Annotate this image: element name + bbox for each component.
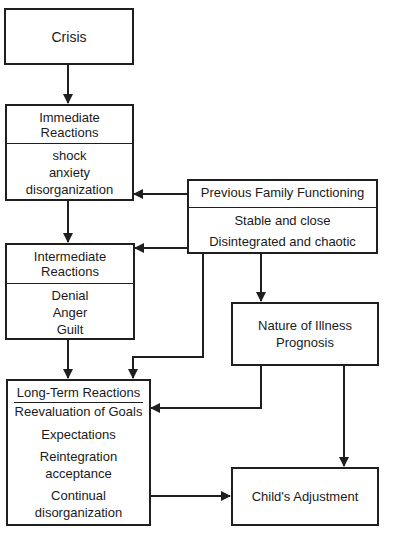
long-term-title: Long-Term Reactions: [14, 385, 143, 403]
immediate-title-line-1: Immediate: [7, 110, 132, 125]
intermediate-reactions-box: Intermediate Reactions Denial Anger Guil…: [5, 243, 135, 340]
long-term-item: Continual: [8, 487, 149, 505]
long-term-subtitle: Reevaluation of Goals: [8, 404, 149, 420]
long-term-items: Expectations Reintegration acceptance Co…: [8, 420, 149, 522]
intermediate-item: Denial: [7, 287, 133, 304]
nature-line-1: Nature of Illness: [258, 317, 352, 334]
nature-line-2: Prognosis: [276, 334, 334, 351]
immediate-item: disorganization: [7, 181, 132, 198]
intermediate-reactions-header: Intermediate Reactions: [7, 245, 133, 284]
long-term-item: Reintegration: [8, 448, 149, 466]
intermediate-item: Anger: [7, 304, 133, 321]
long-term-title-text: Long-Term Reactions: [17, 385, 141, 400]
immediate-item: shock: [7, 147, 132, 164]
immediate-reactions-box: Immediate Reactions shock anxiety disorg…: [5, 104, 134, 201]
immediate-reactions-items: shock anxiety disorganization: [7, 144, 132, 198]
immediate-reactions-header: Immediate Reactions: [7, 106, 132, 144]
intermediate-reactions-items: Denial Anger Guilt: [7, 284, 133, 338]
immediate-item: anxiety: [7, 164, 132, 181]
long-term-reactions-box: Long-Term Reactions Reevaluation of Goal…: [6, 379, 151, 526]
childs-adjustment-label: Child's Adjustment: [252, 489, 359, 504]
previous-family-functioning-box: Previous Family Functioning Stable and c…: [187, 179, 378, 254]
childs-adjustment-box: Child's Adjustment: [231, 467, 379, 526]
long-term-item: Expectations: [8, 426, 149, 444]
intermediate-title-line-1: Intermediate: [7, 249, 133, 264]
intermediate-item: Guilt: [7, 321, 133, 338]
previous-family-items: Stable and close Disintegrated and chaot…: [189, 208, 376, 252]
nature-of-illness-box: Nature of Illness Prognosis: [231, 302, 379, 366]
intermediate-title-line-2: Reactions: [7, 264, 133, 279]
long-term-item: acceptance: [8, 465, 149, 483]
arrow-nature-to-longterm: [151, 365, 261, 408]
arrow-family-to-longterm: [133, 253, 203, 378]
crisis-label: Crisis: [52, 29, 87, 45]
long-term-item: disorganization: [8, 504, 149, 522]
family-item: Stable and close: [189, 210, 376, 231]
immediate-title-line-2: Reactions: [7, 125, 132, 140]
previous-family-header: Previous Family Functioning: [189, 181, 376, 208]
crisis-box: Crisis: [4, 8, 134, 65]
family-item: Disintegrated and chaotic: [189, 231, 376, 252]
